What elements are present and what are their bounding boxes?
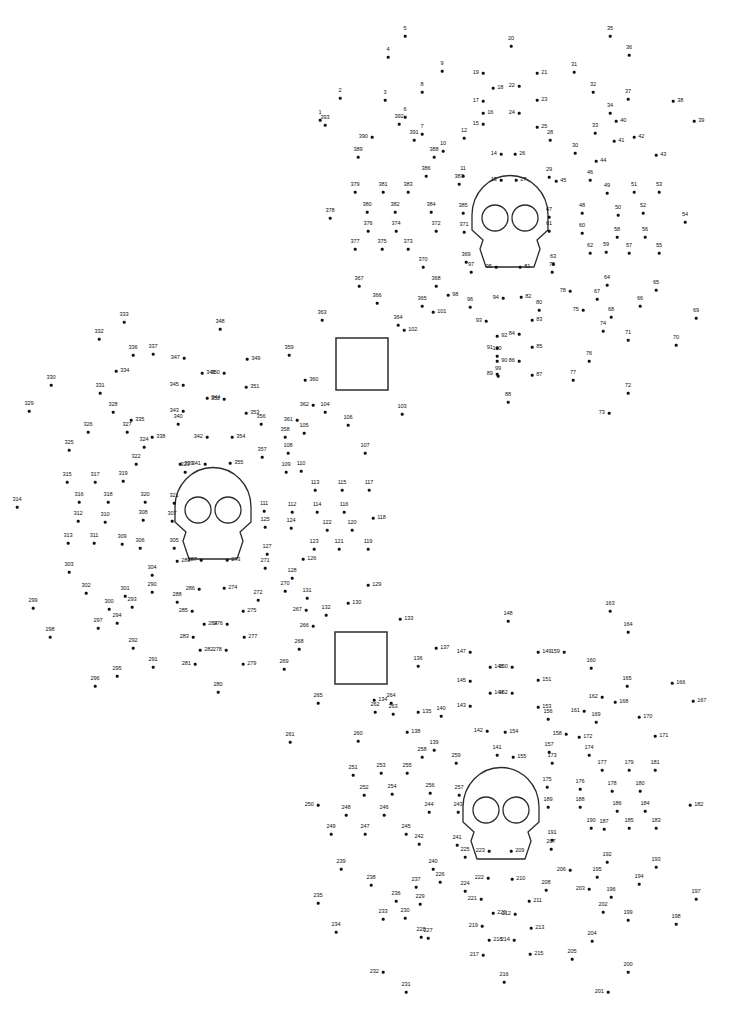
puzzle-dot[interactable] [628,827,631,830]
puzzle-dot[interactable] [502,297,505,300]
puzzle-dot[interactable] [303,432,306,435]
puzzle-dot[interactable] [482,123,485,126]
puzzle-dot[interactable] [66,481,69,484]
puzzle-dot[interactable] [93,542,96,545]
puzzle-dot[interactable] [614,701,617,704]
puzzle-dot[interactable] [199,649,202,652]
puzzle-dot[interactable] [116,622,119,625]
puzzle-dot[interactable] [245,386,248,389]
puzzle-dot[interactable] [177,423,180,426]
puzzle-dot[interactable] [352,774,355,777]
puzzle-dot[interactable] [607,991,610,994]
puzzle-dot[interactable] [428,811,431,814]
puzzle-dot[interactable] [548,230,551,233]
puzzle-dot[interactable] [588,360,591,363]
puzzle-dot[interactable] [514,913,517,916]
puzzle-dot[interactable] [347,424,350,427]
puzzle-dot[interactable] [628,54,631,57]
puzzle-dot[interactable] [404,917,407,920]
puzzle-dot[interactable] [590,827,593,830]
puzzle-dot[interactable] [432,311,435,314]
puzzle-dot[interactable] [317,902,320,905]
puzzle-dot[interactable] [588,754,591,757]
puzzle-dot[interactable] [695,317,698,320]
puzzle-dot[interactable] [427,937,430,940]
puzzle-dot[interactable] [182,410,185,413]
puzzle-dot[interactable] [492,87,495,90]
puzzle-dot[interactable] [419,903,422,906]
puzzle-dot[interactable] [226,559,229,562]
puzzle-dot[interactable] [489,666,492,669]
puzzle-dot[interactable] [529,953,532,956]
puzzle-dot[interactable] [16,506,19,509]
puzzle-dot[interactable] [536,99,539,102]
puzzle-dot[interactable] [257,599,260,602]
puzzle-dot[interactable] [266,553,269,556]
puzzle-dot[interactable] [176,601,179,604]
puzzle-dot[interactable] [418,843,421,846]
puzzle-dot[interactable] [513,939,516,942]
puzzle-dot[interactable] [464,890,467,893]
puzzle-dot[interactable] [507,620,510,623]
puzzle-dot[interactable] [324,124,327,127]
puzzle-dot[interactable] [407,191,410,194]
puzzle-dot[interactable] [591,940,594,943]
puzzle-dot[interactable] [609,112,612,115]
puzzle-dot[interactable] [627,98,630,101]
puzzle-dot[interactable] [581,232,584,235]
puzzle-dot[interactable] [152,666,155,669]
puzzle-dot[interactable] [435,647,438,650]
puzzle-dot[interactable] [602,330,605,333]
puzzle-dot[interactable] [417,665,420,668]
puzzle-dot[interactable] [123,321,126,324]
puzzle-dot[interactable] [325,614,328,617]
puzzle-dot[interactable] [551,271,554,274]
puzzle-dot[interactable] [395,230,398,233]
puzzle-dot[interactable] [481,925,484,928]
puzzle-dot[interactable] [78,501,81,504]
puzzle-dot[interactable] [464,856,467,859]
puzzle-dot[interactable] [615,120,618,123]
puzzle-dot[interactable] [537,679,540,682]
puzzle-dot[interactable] [572,379,575,382]
puzzle-dot[interactable] [589,179,592,182]
puzzle-dot[interactable] [432,868,435,871]
puzzle-dot[interactable] [488,939,491,942]
puzzle-dot[interactable] [28,410,31,413]
puzzle-dot[interactable] [485,320,488,323]
puzzle-dot[interactable] [107,501,110,504]
puzzle-dot[interactable] [440,715,443,718]
puzzle-dot[interactable] [469,680,472,683]
puzzle-dot[interactable] [510,45,513,48]
puzzle-dot[interactable] [590,667,593,670]
puzzle-dot[interactable] [675,344,678,347]
puzzle-dot[interactable] [628,252,631,255]
puzzle-dot[interactable] [616,810,619,813]
puzzle-dot[interactable] [519,266,522,269]
puzzle-dot[interactable] [571,958,574,961]
puzzle-dot[interactable] [264,526,267,529]
puzzle-dot[interactable] [219,328,222,331]
puzzle-dot[interactable] [291,577,294,580]
puzzle-dot[interactable] [695,898,698,901]
puzzle-dot[interactable] [367,584,370,587]
puzzle-dot[interactable] [546,786,549,789]
puzzle-dot[interactable] [374,711,377,714]
puzzle-dot[interactable] [538,309,541,312]
puzzle-dot[interactable] [300,470,303,473]
puzzle-dot[interactable] [689,804,692,807]
puzzle-dot[interactable] [433,156,436,159]
puzzle-dot[interactable] [289,741,292,744]
puzzle-dot[interactable] [496,335,499,338]
puzzle-dot[interactable] [610,896,613,899]
puzzle-dot[interactable] [548,216,551,219]
puzzle-dot[interactable] [316,511,319,514]
puzzle-dot[interactable] [50,384,53,387]
puzzle-dot[interactable] [204,463,207,466]
puzzle-dot[interactable] [201,372,204,375]
puzzle-dot[interactable] [627,631,630,634]
puzzle-dot[interactable] [229,462,232,465]
puzzle-dot[interactable] [606,284,609,287]
puzzle-dot[interactable] [417,711,420,714]
puzzle-dot[interactable] [638,883,641,886]
